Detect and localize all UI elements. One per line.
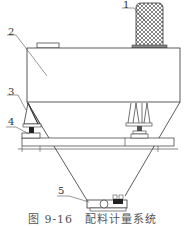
hopper-body [27, 43, 180, 102]
support-bracket-right [126, 103, 152, 138]
label-2: 2 [8, 27, 14, 37]
label-5: 5 [58, 186, 64, 196]
figure-caption: 图 9-16 配料计量系统 [0, 214, 185, 225]
load-cell-left [22, 127, 40, 138]
label-1: 1 [123, 0, 129, 10]
support-frame [18, 138, 178, 152]
batching-system-diagram [0, 0, 185, 226]
discharge-gate [87, 195, 127, 211]
leader-lines [6, 8, 146, 202]
label-3: 3 [8, 87, 14, 97]
hopper-cone [27, 102, 180, 202]
motor [132, 3, 167, 48]
support-bracket-left [23, 103, 41, 127]
label-4: 4 [8, 117, 14, 127]
